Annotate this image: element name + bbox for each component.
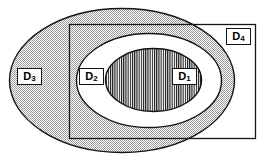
region-label-d2-base: D xyxy=(85,71,93,82)
region-label-d2: D2 xyxy=(79,68,104,85)
region-label-d3: D3 xyxy=(17,68,42,85)
diagram-figure: D3 D2 D1 D4 xyxy=(0,0,267,163)
region-label-d1: D1 xyxy=(172,68,197,85)
region-label-d2-subscript: 2 xyxy=(93,75,97,83)
region-label-d1-base: D xyxy=(178,71,186,82)
region-label-d4: D4 xyxy=(226,28,251,45)
region-label-d3-subscript: 3 xyxy=(31,75,35,83)
region-label-d4-base: D xyxy=(232,31,240,42)
region-label-d3-base: D xyxy=(23,71,31,82)
region-label-d4-subscript: 4 xyxy=(240,35,244,43)
region-label-d1-subscript: 1 xyxy=(186,75,190,83)
